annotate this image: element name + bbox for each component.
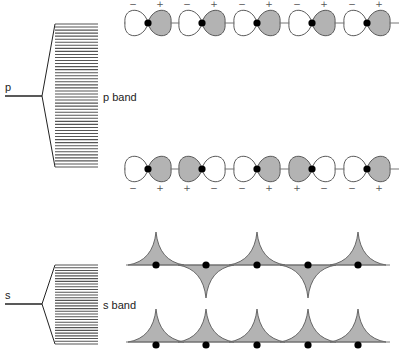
nucleus-dot (308, 19, 315, 26)
s-lobe-up (330, 232, 386, 265)
p-orbital: −+ (344, 0, 390, 36)
p-orbital: −+ (344, 156, 390, 193)
nucleus-dot (354, 341, 361, 348)
nucleus-dot (202, 341, 209, 348)
s-level-label: s (5, 289, 11, 301)
s-fan-line-top (42, 265, 55, 304)
right-lobe-sign: + (156, 183, 164, 193)
right-lobe-sign: − (320, 183, 328, 193)
p-orbital: +− (179, 156, 225, 193)
p-orbitals-antibonding: −+−+−+−+−+ (124, 0, 399, 36)
s-band-label: s band (103, 299, 136, 311)
right-lobe-sign: − (210, 183, 218, 193)
left-lobe-sign: − (293, 0, 301, 9)
p-orbital: −+ (234, 0, 280, 36)
s-fan-line-bottom (42, 304, 55, 344)
s-lobe-up (330, 309, 386, 342)
nucleus-dot (202, 261, 209, 268)
right-lobe-sign: + (375, 0, 383, 9)
right-lobe-sign: + (265, 0, 273, 9)
s-lobe-down (178, 265, 234, 298)
left-lobe-sign: − (348, 183, 356, 193)
s-lobe-up (178, 309, 234, 342)
s-energy-level (5, 265, 98, 344)
right-lobe-sign: + (156, 0, 164, 9)
s-lobe-up (280, 309, 336, 342)
nucleus-dot (304, 261, 311, 268)
p-orbital: −+ (179, 0, 225, 36)
p-orbitals-bonding: −++−−++−−+ (124, 156, 399, 193)
p-orbital: −+ (289, 0, 335, 36)
nucleus-dot (253, 341, 260, 348)
band-formation-diagram: −+−+−+−+−+−++−−++−−+ p p band s s band (0, 0, 411, 355)
nucleus-dot (354, 261, 361, 268)
nucleus-dot (198, 165, 205, 172)
nucleus-dot (363, 19, 370, 26)
p-level-label: p (5, 81, 11, 93)
s-lobe-up (128, 309, 184, 342)
s-lobe-up (128, 232, 184, 265)
s-lobe-up (229, 232, 285, 265)
s-lobe-down (280, 265, 336, 298)
left-lobe-sign: − (348, 0, 356, 9)
nucleus-dot (308, 165, 315, 172)
nucleus-dot (144, 165, 151, 172)
left-lobe-sign: − (183, 0, 191, 9)
nucleus-dot (144, 19, 151, 26)
left-lobe-sign: + (293, 183, 301, 193)
nucleus-dot (253, 165, 260, 172)
left-lobe-sign: − (129, 183, 137, 193)
s-orbitals-antibonding (126, 232, 390, 298)
left-lobe-sign: + (183, 183, 191, 193)
left-lobe-sign: − (129, 0, 137, 9)
left-lobe-sign: − (238, 0, 246, 9)
right-lobe-sign: + (210, 0, 218, 9)
nucleus-dot (152, 261, 159, 268)
left-lobe-sign: − (238, 183, 246, 193)
p-fan-line-top (42, 24, 55, 96)
right-lobe-sign: + (375, 183, 383, 193)
p-orbital: +− (289, 156, 335, 193)
right-lobe-sign: + (265, 183, 273, 193)
nucleus-dot (198, 19, 205, 26)
p-band-label: p band (103, 91, 137, 103)
s-lobe-up (229, 309, 285, 342)
nucleus-dot (253, 19, 260, 26)
nucleus-dot (152, 341, 159, 348)
s-orbital-rows (126, 232, 390, 349)
p-orbital: −+ (125, 156, 171, 193)
p-orbital: −+ (234, 156, 280, 193)
nucleus-dot (253, 261, 260, 268)
nucleus-dot (363, 165, 370, 172)
p-orbital: −+ (125, 0, 171, 36)
p-orbital-rows: −+−+−+−+−+−++−−++−−+ (124, 0, 399, 193)
p-fan-line-bottom (42, 96, 55, 167)
s-orbitals-bonding (126, 309, 390, 349)
right-lobe-sign: + (320, 0, 328, 9)
p-energy-level (5, 24, 98, 167)
nucleus-dot (304, 341, 311, 348)
